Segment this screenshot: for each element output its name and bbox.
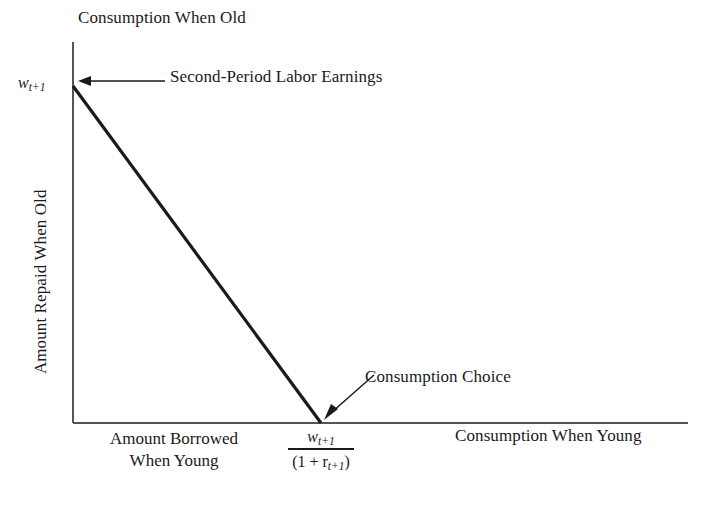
fraction-numerator-subscript: t+1: [318, 435, 335, 447]
x-axis-caption-amount-borrowed: Amount Borrowed When Young: [74, 428, 274, 472]
fraction: wt+1 (1 + rt+1): [288, 428, 354, 471]
x-caption-left-line-1: Amount Borrowed: [74, 428, 274, 450]
fraction-numerator-variable: w: [307, 428, 318, 445]
chart-title-consumption-when-old: Consumption When Old: [78, 8, 246, 28]
fraction-denominator-variable: r: [322, 453, 327, 470]
y-intercept-tick-label: wt+1: [18, 74, 45, 92]
fraction-denominator-close: ): [345, 453, 350, 470]
annotation-second-period-labor-earnings: Second-Period Labor Earnings: [170, 67, 382, 87]
x-intercept-fraction-label: wt+1 (1 + rt+1): [273, 428, 369, 471]
annotation-consumption-choice: Consumption Choice: [365, 367, 511, 387]
y-intercept-variable: w: [18, 74, 29, 91]
budget-constraint-line: [73, 86, 321, 423]
fraction-denominator: (1 + rt+1): [288, 452, 354, 471]
x-caption-left-line-2: When Young: [74, 450, 274, 472]
y-intercept-subscript: t+1: [29, 81, 46, 93]
x-axis-label: Consumption When Young: [455, 426, 642, 446]
fraction-numerator: wt+1: [288, 428, 354, 447]
fraction-denominator-subscript: t+1: [328, 460, 345, 472]
earnings-annotation-arrow: [78, 76, 165, 86]
fraction-bar: [288, 448, 354, 450]
budget-constraint-figure: Consumption When Old Amount Repaid When …: [0, 0, 722, 513]
fraction-denominator-open: (1 +: [292, 453, 322, 470]
y-axis-label: Amount Repaid When Old: [31, 157, 51, 407]
